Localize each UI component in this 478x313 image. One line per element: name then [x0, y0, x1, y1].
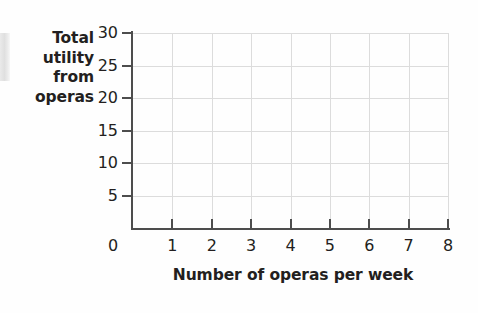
x-tick-mark [368, 219, 370, 230]
x-tick-mark [447, 219, 449, 230]
x-tick-label: 3 [239, 238, 263, 254]
y-tick-mark [122, 130, 133, 132]
x-tick-label: 2 [200, 238, 224, 254]
y-tick-label: 20 [88, 90, 118, 106]
x-tick-label: 7 [397, 238, 421, 254]
y-axis-title-line-4: operas [14, 88, 94, 108]
gridline-vertical [448, 33, 449, 228]
gridline-horizontal [133, 196, 448, 197]
scan-artifact [0, 33, 10, 81]
y-tick-label: 25 [88, 58, 118, 74]
chart-figure: Total utility from operas 51015202530012… [0, 0, 478, 313]
y-axis-title: Total utility from operas [14, 29, 94, 107]
y-tick-mark [122, 162, 133, 164]
x-tick-mark [211, 219, 213, 230]
y-tick-mark [122, 32, 133, 34]
gridline-horizontal [133, 131, 448, 132]
y-tick-label: 5 [88, 188, 118, 204]
x-tick-mark [408, 219, 410, 230]
y-tick-label: 30 [88, 25, 118, 41]
y-tick-mark [122, 65, 133, 67]
y-axis-title-line-1: Total [14, 29, 94, 49]
x-tick-mark [329, 219, 331, 230]
gridline-horizontal [133, 33, 448, 34]
gridline-horizontal [133, 66, 448, 67]
x-tick-label: 4 [279, 238, 303, 254]
plot-area [133, 33, 448, 228]
gridline-horizontal [133, 98, 448, 99]
x-tick-mark [171, 219, 173, 230]
y-tick-mark [122, 195, 133, 197]
x-axis-title: Number of operas per week [133, 266, 453, 284]
y-tick-label: 15 [88, 123, 118, 139]
x-tick-mark [290, 219, 292, 230]
x-tick-mark [250, 219, 252, 230]
x-tick-label: 8 [436, 238, 460, 254]
x-tick-label: 5 [318, 238, 342, 254]
y-tick-label: 10 [88, 155, 118, 171]
x-tick-label: 0 [101, 238, 125, 254]
y-axis-title-line-3: from [14, 68, 94, 88]
x-tick-label: 1 [160, 238, 184, 254]
gridline-horizontal [133, 163, 448, 164]
y-tick-mark [122, 97, 133, 99]
x-tick-label: 6 [357, 238, 381, 254]
y-axis-title-line-2: utility [14, 49, 94, 69]
